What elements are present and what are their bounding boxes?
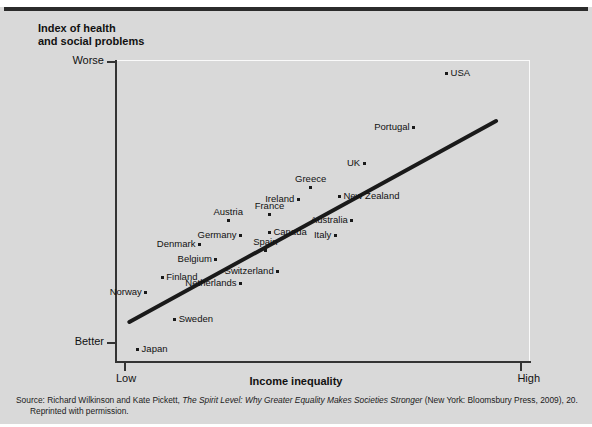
data-label-germany: Germany [198,230,237,240]
data-label-ireland: Ireland [265,194,294,204]
data-point-portugal [412,126,415,129]
source-note: Source: Richard Wilkinson and Kate Picke… [16,395,582,417]
data-point-ireland [297,198,300,201]
figure-container: Index of health and social problems Wors… [0,0,592,427]
data-label-belgium: Belgium [178,254,212,264]
data-label-australia: Australia [311,215,348,225]
data-point-usa [445,72,448,75]
y-tick-label-better: Better [10,335,104,347]
data-label-switzerland: Switzerland [225,266,274,276]
data-point-australia [350,219,353,222]
x-axis-title: Income inequality [0,375,592,387]
data-point-new-zealand [338,195,341,198]
data-label-usa: USA [451,68,471,78]
data-point-finland [161,276,164,279]
data-label-greece: Greece [295,174,326,184]
data-point-belgium [214,258,217,261]
data-label-spain: Spain [253,237,277,247]
source-book-title: The Spirit Level: Why Greater Equality M… [182,395,422,405]
data-label-new-zealand: New Zealand [343,191,399,201]
source-reprint-line: Reprinted with permission. [16,406,582,417]
data-label-portugal: Portugal [374,122,409,132]
data-point-canada [268,231,271,234]
data-point-austria [227,219,230,222]
y-tick-label-worse: Worse [10,54,104,66]
data-label-norway: Norway [110,287,142,297]
y-axis-line [115,60,117,363]
data-point-netherlands [239,282,242,285]
data-label-italy: Italy [314,230,331,240]
data-point-uk [363,162,366,165]
data-label-canada: Canada [273,227,306,237]
x-axis-line [115,361,531,363]
data-label-uk: UK [347,158,360,168]
data-point-france [268,213,271,216]
y-axis-title-line2: and social problems [38,35,188,48]
data-label-austria: Austria [213,207,243,217]
source-suffix: (New York: Bloomsbury Press, 2009), 20. [422,395,577,405]
source-prefix: Source: Richard Wilkinson and Kate Picke… [16,395,182,405]
data-point-greece [309,186,312,189]
data-point-switzerland [276,270,279,273]
data-label-netherlands: Netherlands [185,278,236,288]
top-horizontal-rule [4,7,588,11]
y-axis-title-line1: Index of health [38,22,188,35]
data-point-norway [144,291,147,294]
top-white-margin [0,0,592,7]
data-point-japan [136,348,139,351]
data-point-spain [264,249,267,252]
data-point-italy [334,234,337,237]
y-tick-better [107,342,116,344]
data-label-japan: Japan [142,344,168,354]
data-point-germany [239,234,242,237]
data-label-denmark: Denmark [157,239,196,249]
x-tick-low [124,362,126,371]
data-label-sweden: Sweden [179,314,213,324]
data-point-denmark [198,243,201,246]
y-axis-title: Index of health and social problems [38,22,188,48]
y-tick-worse [107,61,116,63]
x-tick-high [520,362,522,371]
data-point-sweden [173,318,176,321]
